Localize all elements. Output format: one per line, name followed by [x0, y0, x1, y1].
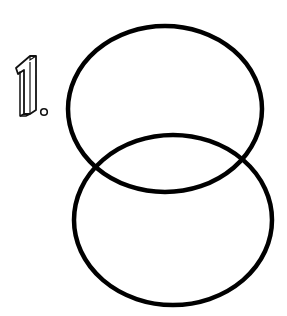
drawing-canvas: 1.: [0, 0, 287, 316]
lower-oval: [74, 135, 272, 305]
outlined-digit-one-icon: [10, 52, 60, 122]
step-number-label: 1.: [10, 52, 60, 122]
ovals-drawing: [0, 0, 287, 316]
